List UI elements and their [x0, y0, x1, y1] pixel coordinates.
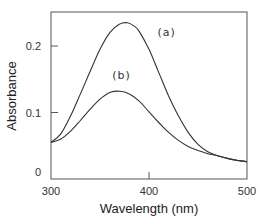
data-curves	[51, 23, 247, 162]
x-axis-label: Wavelength (nm)	[100, 201, 199, 216]
tick-labels: 30040050000.10.2	[26, 40, 256, 197]
x-tick-label: 300	[42, 185, 60, 197]
x-tick-label: 500	[238, 185, 256, 197]
curve-label-b: (b)	[112, 69, 131, 82]
y-tick-label: 0.1	[26, 107, 41, 119]
y-tick-label: 0	[35, 166, 41, 178]
curve-b	[51, 91, 247, 162]
axis-ticks	[51, 46, 149, 179]
y-axis-label: Absorbance	[4, 61, 19, 130]
plot-frame	[51, 12, 247, 179]
curve-label-a: (a)	[157, 26, 175, 39]
absorbance-spectrum-chart: 30040050000.10.2 (a)(b) Wavelength (nm) …	[0, 0, 264, 223]
curve-a	[51, 23, 247, 162]
curve-labels: (a)(b)	[112, 26, 176, 82]
y-tick-label: 0.2	[26, 40, 41, 52]
x-tick-label: 400	[140, 185, 158, 197]
